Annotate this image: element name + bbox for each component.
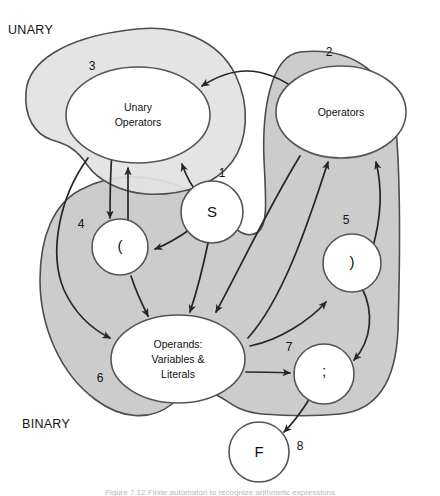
region-label-unary: UNARY: [8, 23, 53, 37]
node-number-7: 7: [286, 340, 293, 354]
figure-caption: Figure 7.12 Finite automaton to recogniz…: [0, 487, 440, 496]
node-rparen-label: ): [350, 253, 355, 270]
node-unary-operators-label-line1: Unary: [124, 101, 153, 113]
node-number-1: 1: [219, 166, 226, 180]
automaton-diagram: Unary Operators Operators S ( ) Operands…: [0, 0, 440, 496]
node-operators-label: Operators: [318, 106, 365, 118]
node-semicolon-label: ;: [322, 362, 326, 379]
node-operands-label-line2: Variables &: [152, 353, 205, 365]
node-operands-label-line3: Literals: [161, 368, 195, 380]
node-s-label: S: [207, 203, 217, 220]
node-f-label: F: [254, 443, 263, 460]
node-number-6: 6: [97, 371, 104, 385]
region-label-binary: BINARY: [22, 417, 70, 431]
node-number-2: 2: [326, 45, 333, 59]
node-number-5: 5: [343, 213, 350, 227]
node-operands-label-line1: Operands:: [153, 338, 202, 350]
figure-root: Unary Operators Operators S ( ) Operands…: [0, 0, 440, 496]
node-number-3: 3: [89, 59, 96, 73]
edge-operands-to-semicolon: [246, 372, 290, 373]
node-number-4: 4: [78, 217, 85, 231]
node-lparen-label: (: [118, 237, 123, 254]
node-unary-operators-label-line2: Operators: [115, 116, 162, 128]
node-number-8: 8: [297, 439, 304, 453]
